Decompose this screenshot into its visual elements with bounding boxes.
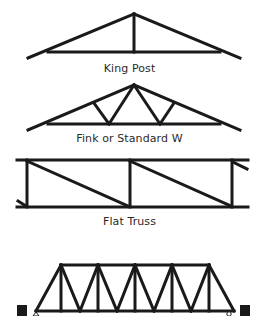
flat-diagonal-2 bbox=[130, 161, 231, 206]
flat-diagonal-1 bbox=[27, 161, 128, 206]
fink-web-left-outer bbox=[94, 103, 109, 124]
bridge-diagonal-5 bbox=[135, 265, 154, 311]
bridge-truss bbox=[36, 265, 234, 311]
bridge-diagonal-8 bbox=[191, 265, 209, 311]
bridge-end-post-right bbox=[209, 265, 234, 311]
king-post-truss bbox=[28, 14, 240, 58]
flat-diagonal-left-partial bbox=[18, 201, 26, 206]
flat-truss bbox=[17, 160, 248, 207]
bridge-diagonal-1 bbox=[61, 265, 80, 311]
fink-label: Fink or Standard W bbox=[0, 132, 259, 145]
truss-diagram bbox=[0, 0, 259, 316]
bridge-diagonal-3 bbox=[98, 265, 117, 311]
support-block-right bbox=[240, 305, 250, 316]
bridge-diagonal-7 bbox=[172, 265, 191, 311]
pin-support-icon bbox=[33, 312, 39, 316]
flat-truss-label: Flat Truss bbox=[0, 215, 259, 228]
bridge-diagonal-6 bbox=[154, 265, 172, 311]
fink-web-right-outer bbox=[160, 103, 174, 124]
fink-truss bbox=[28, 85, 240, 130]
bridge-diagonal-2 bbox=[80, 265, 98, 311]
bridge-end-post-left bbox=[36, 265, 61, 311]
flat-diagonal-right-partial bbox=[233, 162, 247, 169]
roller-support-icon bbox=[227, 312, 231, 316]
king-post-label: King Post bbox=[0, 62, 259, 75]
bridge-diagonal-4 bbox=[117, 265, 135, 311]
support-block-left bbox=[17, 305, 27, 316]
